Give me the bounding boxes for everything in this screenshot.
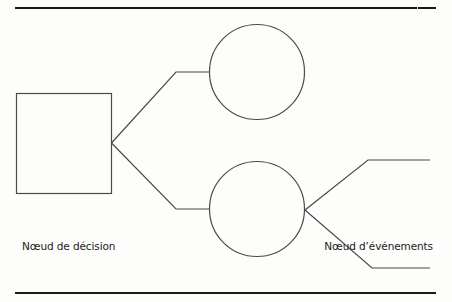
outcome-branch-lower	[305, 210, 430, 268]
bottom-rule	[15, 292, 436, 294]
branch-to-lower-event	[112, 143, 211, 209]
event-node-circle-lower	[210, 162, 305, 257]
event-node-label: Nœud d’événements	[324, 240, 433, 252]
outcome-branch-upper	[305, 160, 430, 210]
branch-to-upper-event	[112, 72, 211, 143]
decision-node-label: Nœud de décision	[22, 240, 115, 252]
decision-node-square	[17, 94, 112, 194]
tree-graphic	[0, 0, 452, 302]
decision-tree-diagram: Nœud de décision Nœud d’événements	[0, 0, 452, 302]
event-node-circle-upper	[210, 25, 305, 120]
